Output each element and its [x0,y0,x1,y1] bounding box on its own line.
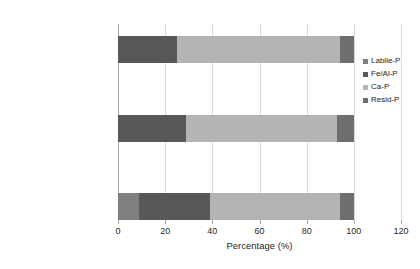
bar-segment [340,193,354,220]
bar-group [0,36,420,63]
bar-segment [177,36,340,63]
x-axis-tick-label: 40 [207,226,217,236]
x-axis-tick [354,220,355,224]
legend-item: Resid-P [363,96,400,104]
legend-swatch-icon [363,59,368,64]
x-axis-tick-label: 20 [160,226,170,236]
legend-item: Fe/Al-P [363,70,400,78]
legend-item: Ca-P [363,83,400,91]
bar-group [0,115,420,142]
bar-segment [118,36,177,63]
x-axis-tick-label: 0 [115,226,120,236]
legend-swatch-icon [363,98,368,103]
bar-segment [118,193,139,220]
legend-item-label: Ca-P [371,83,389,91]
x-axis-tick [307,220,308,224]
legend-item: Labile-P [363,57,400,65]
legend-item-label: Fe/Al-P [371,70,398,78]
x-axis-tick-label: 80 [302,226,312,236]
x-axis-tick [118,220,119,224]
x-axis-tick [212,220,213,224]
bar-segment [186,115,337,142]
x-axis-tick [165,220,166,224]
legend-swatch-icon [363,85,368,90]
x-axis-title: Percentage (%) [118,240,401,251]
stacked-bar-chart: 0d60d-control60d- periphytic biofilm 020… [0,0,420,269]
legend-item-label: Resid-P [371,96,399,104]
bar-segment [118,115,186,142]
chart-legend: Labile-PFe/Al-PCa-PResid-P [363,57,400,104]
x-axis-tick [260,220,261,224]
x-axis-tick-label: 100 [346,226,361,236]
bar-segment [340,36,354,63]
bar-segment [337,115,354,142]
bar-group [0,193,420,220]
bar-segment [210,193,340,220]
bar-segment [139,193,210,220]
legend-swatch-icon [363,72,368,77]
legend-item-label: Labile-P [371,57,400,65]
x-axis-tick-label: 60 [254,226,264,236]
x-axis-tick [401,220,402,224]
x-axis-tick-label: 120 [393,226,408,236]
